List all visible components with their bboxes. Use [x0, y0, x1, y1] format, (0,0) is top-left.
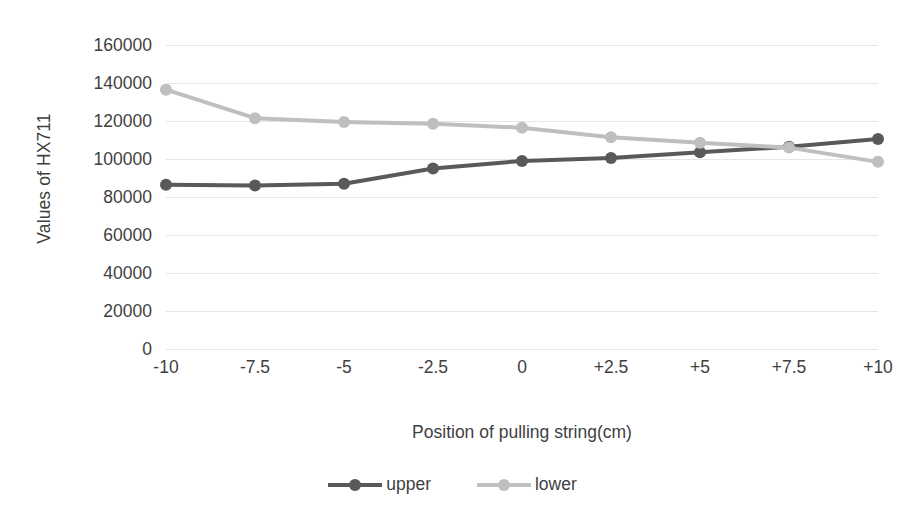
x-axis-tick-label: +5: [660, 357, 740, 378]
data-point-marker: [249, 112, 261, 124]
data-point-marker: [694, 137, 706, 149]
legend-label: upper: [386, 474, 431, 495]
data-point-marker: [516, 122, 528, 134]
data-point-marker: [872, 156, 884, 168]
x-axis-tick-label: +7.5: [749, 357, 829, 378]
legend-entry-lower[interactable]: lower: [475, 474, 577, 495]
x-axis-tick-label: -7.5: [215, 357, 295, 378]
data-point-marker: [427, 163, 439, 175]
plot-area: [166, 45, 878, 349]
legend-label: lower: [535, 474, 577, 495]
chart-legend: upperlower: [0, 474, 903, 495]
series-layer: [166, 45, 878, 349]
data-point-marker: [872, 133, 884, 145]
x-axis-title: Position of pulling string(cm): [166, 422, 878, 443]
x-axis-tick-label: -2.5: [393, 357, 473, 378]
data-point-marker: [160, 84, 172, 96]
y-axis-tick-label: 120000: [42, 111, 152, 132]
data-point-marker: [160, 179, 172, 191]
data-point-marker: [605, 131, 617, 143]
y-axis-tick-label: 140000: [42, 73, 152, 94]
data-point-marker: [605, 152, 617, 164]
line-chart: Values of HX711 160000140000120000100000…: [0, 0, 903, 531]
x-axis-tick-label: +10: [838, 357, 903, 378]
legend-marker-icon: [475, 476, 533, 494]
x-axis-tick-label: -5: [304, 357, 384, 378]
y-axis-tick-label: 20000: [42, 301, 152, 322]
data-point-marker: [338, 116, 350, 128]
data-point-marker: [427, 118, 439, 130]
x-axis-tick-label: -10: [126, 357, 206, 378]
y-axis-tick-label: 40000: [42, 263, 152, 284]
x-axis-tick-label: 0: [482, 357, 562, 378]
y-axis-tick-label: 160000: [42, 35, 152, 56]
data-point-marker: [338, 178, 350, 190]
x-axis-tick-labels: -10-7.5-5-2.50+2.5+5+7.5+10: [166, 357, 878, 385]
y-axis-tick-label: 100000: [42, 149, 152, 170]
y-axis-tick-label: 60000: [42, 225, 152, 246]
legend-marker-icon: [326, 476, 384, 494]
data-point-marker: [516, 155, 528, 167]
series-upper: [160, 133, 884, 192]
legend-entry-upper[interactable]: upper: [326, 474, 431, 495]
data-point-marker: [249, 180, 261, 192]
gridline: [166, 349, 878, 350]
data-point-marker: [783, 142, 795, 154]
y-axis-tick-labels: 1600001400001200001000008000060000400002…: [40, 45, 152, 349]
x-axis-tick-label: +2.5: [571, 357, 651, 378]
y-axis-tick-label: 80000: [42, 187, 152, 208]
